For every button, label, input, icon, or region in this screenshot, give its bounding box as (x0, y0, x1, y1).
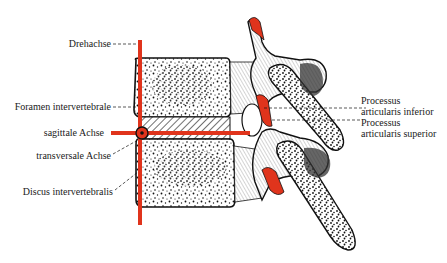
label-discus-intervertebralis: Discus intervertebralis (23, 186, 113, 197)
label-transversale-achse: transversale Achse (36, 150, 111, 161)
intervertebral-disc (140, 117, 230, 139)
transversal-axis-marker (136, 127, 148, 139)
label-processus-articularis-inferior: Processus articularis inferior (361, 95, 433, 117)
label-foramen-intervertebrale: Foramen intervertebrale (15, 101, 111, 112)
lower-vertebral-body (136, 139, 262, 207)
vertebra-diagram: Drehachse Foramen intervertebrale sagitt… (0, 0, 447, 263)
label-proc-sup-line2: articularis superior (361, 128, 436, 139)
label-proc-inf-line2: articularis inferior (361, 106, 433, 117)
upper-vertebral-body (134, 58, 264, 117)
label-proc-sup-line1: Processus (361, 117, 436, 128)
label-drehachse: Drehachse (69, 38, 111, 49)
label-processus-articularis-superior: Processus articularis superior (361, 117, 436, 139)
label-sagittale-achse: sagittale Achse (44, 127, 104, 138)
label-proc-inf-line1: Processus (361, 95, 433, 106)
